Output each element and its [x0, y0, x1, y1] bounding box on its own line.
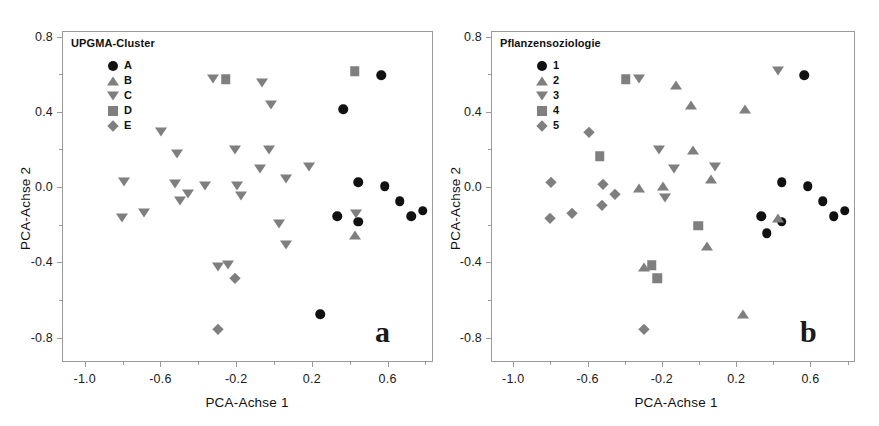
data-point-5-0 [583, 126, 594, 137]
legend-item-5[interactable]: 5 [534, 118, 559, 133]
x-tick-label-3: 0.2 [727, 372, 745, 386]
y-tick-label-1: 0.4 [448, 105, 482, 119]
y-tick-4 [486, 338, 491, 339]
legend-item-D[interactable]: D [105, 103, 132, 118]
x-axis-title-a: PCA-Achse 1 [205, 395, 288, 410]
panel-a: UPGMA-Cluster ABCDE a 0.80.40.0-0.4-0.8-… [0, 0, 440, 426]
x-tick-label-3: 0.2 [303, 372, 321, 386]
x-tick-minor-1 [198, 362, 199, 365]
x-tick-label-1: -0.6 [149, 372, 171, 386]
legend-label-E: E [124, 120, 131, 131]
x-tick-minor-3 [773, 362, 774, 365]
data-point-A-4 [395, 197, 405, 207]
data-point-5-4 [596, 200, 607, 211]
legend-swatch-diamond-icon [105, 118, 121, 133]
data-point-C-3 [155, 127, 167, 136]
legend-label-B: B [124, 75, 132, 86]
legend-swatch-triangle-up-icon [534, 73, 550, 88]
y-tick-0 [57, 37, 62, 38]
y-tick-3 [486, 262, 491, 263]
legend-item-C[interactable]: C [105, 88, 132, 103]
legend-title-b: Pflanzensoziologie [500, 37, 601, 49]
x-tick-minor-0 [550, 362, 551, 365]
data-point-3-5 [659, 193, 671, 202]
data-point-C-6 [263, 146, 275, 155]
marker-square [108, 106, 118, 116]
y-tick-minor-2 [488, 225, 491, 226]
data-point-C-12 [280, 174, 292, 183]
legend-item-A[interactable]: A [105, 58, 132, 73]
data-point-4-4 [653, 274, 663, 284]
data-point-C-0 [207, 75, 219, 84]
data-point-1-5 [840, 206, 850, 216]
legend-item-2[interactable]: 2 [534, 73, 559, 88]
data-point-4-1 [595, 151, 605, 161]
data-point-2-8 [701, 242, 713, 251]
data-point-2-10 [737, 310, 749, 319]
x-tick-minor-4 [848, 362, 849, 365]
x-tick-label-2: -0.2 [225, 372, 247, 386]
x-tick-1 [160, 362, 161, 367]
data-point-B-0 [349, 231, 361, 240]
legend-a: ABCDE [105, 58, 132, 133]
data-point-2-3 [687, 146, 699, 155]
data-point-E-1 [213, 324, 224, 335]
y-tick-1 [486, 112, 491, 113]
legend-label-4: 4 [553, 105, 559, 116]
data-point-E-0 [230, 273, 241, 284]
legend-item-1[interactable]: 1 [534, 58, 559, 73]
data-point-1-6 [757, 212, 767, 222]
x-tick-minor-2 [699, 362, 700, 365]
plot-area-a: UPGMA-Cluster ABCDE a [62, 31, 433, 362]
data-point-C-15 [182, 189, 194, 198]
data-point-A-6 [418, 206, 428, 216]
legend-swatch-square-icon [105, 103, 121, 118]
x-tick-label-0: -1.0 [502, 372, 524, 386]
data-point-4-0 [621, 74, 631, 84]
legend-item-E[interactable]: E [105, 118, 132, 133]
legend-swatch-triangle-down-icon [105, 88, 121, 103]
y-tick-1 [57, 112, 62, 113]
marker-triangle-up [107, 77, 119, 86]
marker-diamond [107, 120, 118, 131]
legend-item-3[interactable]: 3 [534, 88, 559, 103]
marker-diamond [536, 120, 547, 131]
x-axis-title-b: PCA-Achse 1 [634, 395, 717, 410]
data-point-D-1 [350, 67, 360, 77]
data-point-3-3 [668, 165, 680, 174]
y-tick-minor-2 [59, 225, 62, 226]
data-point-C-20 [273, 219, 285, 228]
legend-swatch-circle-icon [534, 58, 550, 73]
data-point-4-3 [647, 260, 657, 270]
x-tick-label-2: -0.2 [651, 372, 673, 386]
x-tick-0 [513, 362, 514, 367]
legend-swatch-circle-icon [105, 58, 121, 73]
data-point-C-1 [256, 78, 268, 87]
data-point-D-0 [221, 74, 231, 84]
data-point-C-9 [199, 182, 211, 191]
marker-circle [108, 61, 118, 71]
legend-item-B[interactable]: B [105, 73, 132, 88]
legend-label-A: A [124, 60, 132, 71]
legend-label-1: 1 [553, 60, 559, 71]
data-point-A-3 [380, 181, 390, 191]
marker-circle [537, 61, 547, 71]
plot-area-b: Pflanzensoziologie 12345 b [491, 31, 855, 362]
data-point-1-1 [777, 178, 787, 188]
legend-label-2: 2 [553, 75, 559, 86]
marker-triangle-down [536, 92, 548, 101]
legend-title-a: UPGMA-Cluster [71, 37, 155, 49]
data-point-A-1 [376, 71, 386, 81]
data-point-2-0 [670, 80, 682, 89]
panel-letter-b: b [800, 315, 817, 349]
y-axis-title-a: PCA-Achse 2 [18, 167, 33, 250]
y-tick-3 [57, 262, 62, 263]
data-point-1-4 [829, 212, 839, 222]
legend-item-4[interactable]: 4 [534, 103, 559, 118]
data-point-5-6 [566, 207, 577, 218]
figure-pca-scatter-pair: UPGMA-Cluster ABCDE a 0.80.40.0-0.4-0.8-… [0, 0, 879, 426]
data-point-C-16 [235, 191, 247, 200]
y-tick-minor-1 [488, 149, 491, 150]
data-point-A-2 [354, 178, 364, 188]
data-point-C-21 [280, 240, 292, 249]
